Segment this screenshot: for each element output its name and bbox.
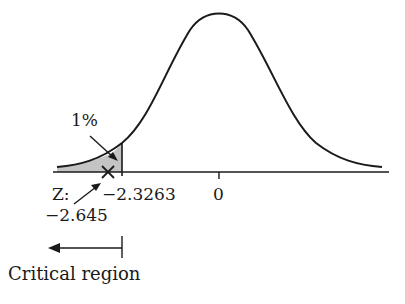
bell-curve [57,14,382,168]
z-axis-label: Z: [52,186,70,203]
test-stat-arrow [74,183,101,204]
test-statistic-label: −2.645 [45,207,108,224]
critical-value-label: −2.3263 [102,186,176,203]
critical-region-arrow [48,236,122,258]
critical-region-label: Critical region [8,265,140,283]
zero-label: 0 [213,186,224,203]
normal-curve-diagram [0,0,405,304]
percent-label: 1% [71,112,98,129]
